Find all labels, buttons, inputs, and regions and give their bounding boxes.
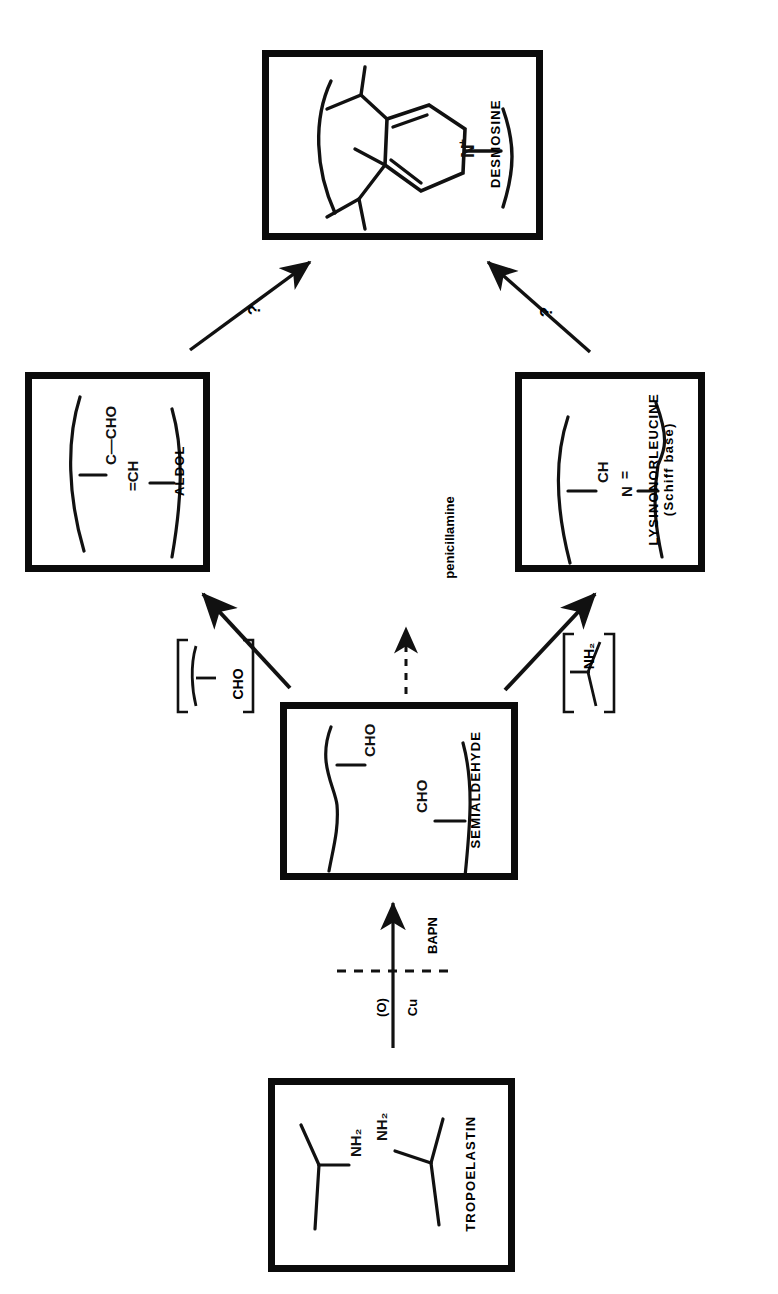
label-oxygen-cofactor: (O): [374, 998, 389, 1017]
label-question-lysinonorleucine: ?: [537, 307, 557, 317]
diagram-canvas: N + DESMOSINE C—CHO =CH ALDOL: [0, 0, 778, 1294]
label-copper-cofactor: Cu: [405, 999, 420, 1016]
arrow-overlay: [0, 0, 778, 1294]
label-bracket-nh2: NH₂: [581, 643, 597, 669]
label-bracket-cho: CHO: [230, 668, 246, 699]
label-question-aldol: ?: [245, 305, 265, 315]
label-bapn: BAPN: [425, 917, 440, 954]
label-penicillamine: penicillamine: [442, 496, 457, 578]
